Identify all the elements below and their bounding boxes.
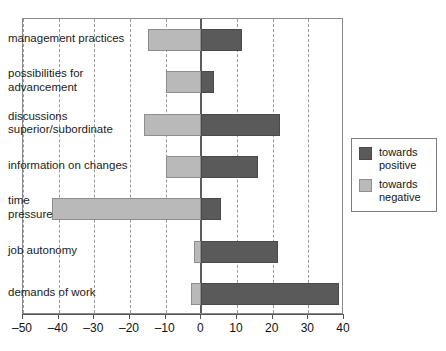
x-tick-10	[236, 314, 237, 319]
gridline-20	[273, 19, 274, 313]
bar-negative	[52, 198, 202, 220]
chart-root: –50–40–30–20–10010203040 towards positiv…	[0, 0, 446, 351]
x-tick--30	[93, 314, 94, 319]
x-tick-30	[307, 314, 308, 319]
bar-negative	[191, 283, 202, 305]
bar-positive	[201, 198, 221, 220]
x-tick--10	[165, 314, 166, 319]
category-label: information on changes	[8, 159, 128, 173]
category-label: job autonomy	[8, 244, 77, 258]
x-tick-label-40: 40	[323, 321, 363, 335]
bar-negative	[194, 241, 201, 263]
bar-positive	[201, 114, 279, 136]
legend-item-towards-positive: towards positive	[359, 146, 430, 171]
x-tick-20	[272, 314, 273, 319]
category-label: time pressure	[8, 194, 53, 221]
x-tick-label--40: –40	[38, 321, 78, 335]
legend-label-towards-positive: towards positive	[379, 146, 418, 171]
x-tick-label--30: –30	[73, 321, 113, 335]
bar-positive	[201, 241, 278, 263]
bar-negative	[166, 71, 202, 93]
bar-positive	[201, 283, 338, 305]
category-label: demands of work	[8, 286, 96, 300]
x-tick-label-10: 10	[216, 321, 256, 335]
light-gray-swatch-icon	[359, 179, 372, 192]
x-tick-0	[200, 314, 201, 319]
bar-negative	[166, 156, 202, 178]
bar-positive	[201, 71, 213, 93]
x-tick--40	[58, 314, 59, 319]
x-tick-label--50: –50	[2, 321, 42, 335]
legend-label-towards-negative: towards negative	[379, 178, 421, 203]
category-label: management practices	[8, 32, 124, 46]
x-tick--50	[22, 314, 23, 319]
dark-gray-swatch-icon	[359, 147, 372, 160]
x-tick-label--10: –10	[145, 321, 185, 335]
gridline--20	[130, 19, 131, 313]
bar-positive	[201, 29, 242, 51]
gridline-30	[308, 19, 309, 313]
x-tick-label-0: 0	[180, 321, 220, 335]
x-tick-label-30: 30	[287, 321, 327, 335]
x-tick-label-20: 20	[252, 321, 292, 335]
x-tick-40	[343, 314, 344, 319]
x-axis-line	[22, 314, 343, 315]
bar-positive	[201, 156, 258, 178]
category-label: possibilities for advancement	[8, 67, 83, 94]
x-tick-label--20: –20	[109, 321, 149, 335]
category-label: discussions superior/subordinate	[8, 110, 113, 137]
x-tick--20	[129, 314, 130, 319]
legend-item-towards-negative: towards negative	[359, 178, 430, 203]
bar-negative	[144, 114, 201, 136]
bar-negative	[148, 29, 202, 51]
chart-legend: towards positive towards negative	[351, 138, 437, 212]
